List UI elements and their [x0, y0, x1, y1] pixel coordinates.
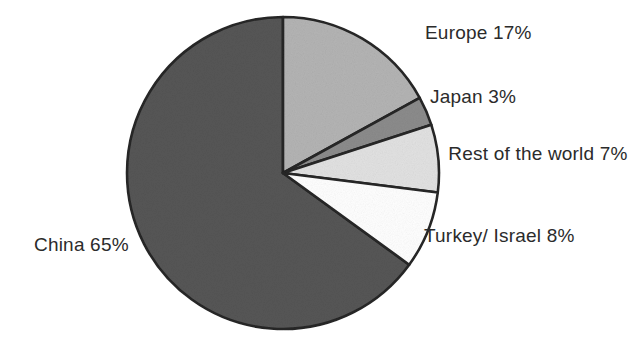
pie-chart-graphic	[0, 0, 641, 343]
pie-label-rest-of-the-world: Rest of the world 7%	[448, 142, 628, 165]
pie-label-europe: Europe 17%	[425, 21, 532, 44]
pie-label-china: China 65%	[34, 233, 129, 256]
pie-label-turkey-israel: Turkey/ Israel 8%	[424, 224, 575, 247]
pie-chart: Europe 17% Japan 3% Rest of the world 7%…	[0, 0, 641, 343]
pie-label-japan: Japan 3%	[430, 85, 516, 108]
